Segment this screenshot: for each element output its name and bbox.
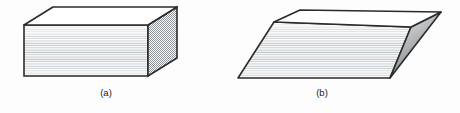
panel-b-front-face [236,20,416,80]
panel-a-block: (a) [24,5,180,98]
figure-container: (a) (b) [0,0,460,113]
panel-b-caption: (b) [316,87,328,98]
panel-b-block: (b) [236,10,441,98]
panel-a-front-face [24,25,148,76]
panel-a-caption: (a) [100,87,112,98]
figure-illustration: (a) (b) [0,0,460,113]
